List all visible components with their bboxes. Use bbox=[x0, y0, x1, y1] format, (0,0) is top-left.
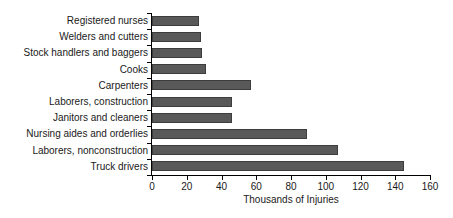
x-axis-tick-mark bbox=[152, 176, 153, 180]
y-axis-tick-mark bbox=[147, 94, 151, 95]
x-axis-tick-label: 120 bbox=[346, 181, 376, 193]
y-axis-tick-mark bbox=[147, 78, 151, 79]
x-axis-tick-mark bbox=[395, 176, 396, 180]
x-axis-tick-mark bbox=[430, 176, 431, 180]
bar-chart: Registered nursesWelders and cuttersStoc… bbox=[0, 0, 453, 218]
x-axis-tick-label: 160 bbox=[415, 181, 445, 193]
y-axis-tick-mark bbox=[147, 110, 151, 111]
y-axis-tick-label: Laborers, construction bbox=[0, 94, 148, 110]
bar bbox=[152, 145, 338, 155]
y-axis-tick-mark bbox=[147, 62, 151, 63]
bar-row bbox=[152, 94, 430, 110]
x-axis-tick-label: 0 bbox=[137, 181, 167, 193]
y-axis-category-labels: Registered nursesWelders and cuttersStoc… bbox=[0, 13, 148, 175]
bar bbox=[152, 64, 206, 74]
bar bbox=[152, 113, 232, 123]
y-axis-tick-label: Stock handlers and baggers bbox=[0, 45, 148, 61]
bar bbox=[152, 48, 202, 58]
y-axis-tick-label: Truck drivers bbox=[0, 159, 148, 175]
x-axis-tick-mark bbox=[361, 176, 362, 180]
x-axis-tick-mark bbox=[187, 176, 188, 180]
y-axis-tick-label: Registered nurses bbox=[0, 13, 148, 29]
y-axis-tick-mark bbox=[147, 126, 151, 127]
x-axis-tick-label: 40 bbox=[207, 181, 237, 193]
bar-row bbox=[152, 126, 430, 142]
bar-row bbox=[152, 78, 430, 94]
x-axis-tick-mark bbox=[222, 176, 223, 180]
y-axis-tick-mark bbox=[147, 13, 151, 14]
y-axis-tick-label: Cooks bbox=[0, 62, 148, 78]
bar bbox=[152, 80, 251, 90]
bar bbox=[152, 16, 199, 26]
y-axis-tick-label: Laborers, nonconstruction bbox=[0, 143, 148, 159]
y-axis-tick-label: Carpenters bbox=[0, 78, 148, 94]
x-axis-tick-mark bbox=[326, 176, 327, 180]
bar-row bbox=[152, 45, 430, 61]
bar bbox=[152, 129, 307, 139]
y-axis-tick-label: Janitors and cleaners bbox=[0, 110, 148, 126]
x-axis-title: Thousands of Injuries bbox=[152, 194, 430, 205]
x-axis-tick-mark bbox=[291, 176, 292, 180]
x-axis-tick-label: 60 bbox=[241, 181, 271, 193]
y-axis-tick-label: Nursing aides and orderlies bbox=[0, 126, 148, 142]
x-axis-tick-label: 20 bbox=[172, 181, 202, 193]
bar bbox=[152, 97, 232, 107]
bar-row bbox=[152, 143, 430, 159]
x-axis-tick-mark bbox=[256, 176, 257, 180]
bar-row bbox=[152, 62, 430, 78]
y-axis-tick-mark bbox=[147, 45, 151, 46]
bar-row bbox=[152, 13, 430, 29]
y-axis-tick-mark bbox=[147, 143, 151, 144]
y-axis-tick-mark bbox=[147, 175, 151, 176]
bar bbox=[152, 32, 201, 42]
plot-area bbox=[152, 13, 430, 175]
x-axis-tick-label: 140 bbox=[380, 181, 410, 193]
y-axis-tick-label: Welders and cutters bbox=[0, 29, 148, 45]
x-axis-tick-label: 80 bbox=[276, 181, 306, 193]
bar-row bbox=[152, 159, 430, 175]
y-axis-tick-mark bbox=[147, 159, 151, 160]
bar bbox=[152, 161, 404, 171]
bar-row bbox=[152, 110, 430, 126]
bar-row bbox=[152, 29, 430, 45]
y-axis-tick-mark bbox=[147, 29, 151, 30]
x-axis-tick-label: 100 bbox=[311, 181, 341, 193]
